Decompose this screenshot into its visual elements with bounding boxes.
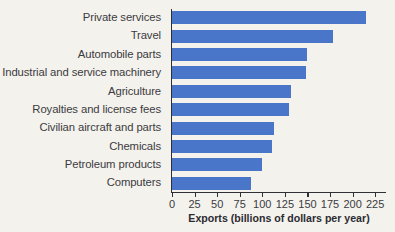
exports-bar-chart: Private servicesTravelAutomobile partsIn… [0,0,395,232]
bar [172,30,333,43]
x-axis-tick [285,192,286,197]
x-axis-tick-labels: 0255075100125150175200225 [160,198,395,212]
x-axis-tick [307,192,308,197]
x-axis-tick [353,192,354,197]
bar [172,158,262,171]
category-label: Petroleum products [0,156,166,174]
x-axis-tick [375,192,376,197]
category-label: Royalties and license fees [0,101,166,119]
category-label: Travel [0,27,166,45]
bar-row [172,64,386,82]
x-axis-tick [172,192,173,197]
bar [172,48,307,61]
bar-row [172,156,386,174]
bar-row [172,27,386,45]
x-axis-tick [195,192,196,197]
bar [172,11,366,24]
x-axis-tick-label: 0 [169,198,175,210]
bar-row [172,46,386,64]
category-axis-labels: Private servicesTravelAutomobile partsIn… [0,9,166,192]
bar [172,85,291,98]
x-axis-tick-label: 150 [298,198,316,210]
category-label: Computers [0,174,166,192]
x-axis-tick-label: 100 [253,198,271,210]
category-label: Civilian aircraft and parts [0,119,166,137]
bar [172,177,251,190]
category-label: Automobile parts [0,46,166,64]
x-axis-tick-label: 25 [188,198,200,210]
bar [172,122,274,135]
x-axis-tick [217,192,218,197]
bar-row [172,119,386,137]
x-axis-tick-label: 200 [343,198,361,210]
bar [172,103,289,116]
category-label: Private services [0,9,166,27]
x-axis-tick-label: 50 [211,198,223,210]
x-axis-tick-label: 75 [234,198,246,210]
bar [172,140,272,153]
bars-group [172,9,386,192]
bar-row [172,9,386,27]
bar [172,66,306,79]
category-label: Industrial and service machinery [0,64,166,82]
x-axis-title: Exports (billions of dollars per year) [172,212,386,224]
x-axis-tick-label: 175 [321,198,339,210]
bar-row [172,138,386,156]
x-axis-tick-label: 125 [276,198,294,210]
bar-row [172,83,386,101]
bar-row [172,101,386,119]
category-label: Agriculture [0,83,166,101]
plot-area [172,9,386,192]
x-axis-tick [262,192,263,197]
bar-row [172,174,386,192]
x-axis-tick [330,192,331,197]
category-label: Chemicals [0,138,166,156]
x-axis-tick-label: 225 [366,198,384,210]
x-axis-tick [240,192,241,197]
